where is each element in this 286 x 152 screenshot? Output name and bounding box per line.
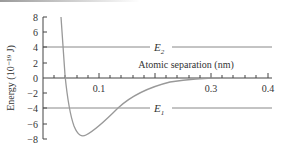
y-tick-m8: −8: [27, 134, 38, 145]
x-tick-0-4: 0.4: [262, 83, 275, 94]
x-tick-0-1: 0.1: [93, 83, 106, 94]
x-axis-title: Atomic separation (nm): [138, 59, 234, 71]
energy-curve: [61, 17, 220, 136]
energy-chart: 8 6 4 2 0 −2 −4 −6 −8 0.1 0.3 0.4 Atomic…: [0, 0, 286, 152]
y-tick-m6: −6: [27, 119, 38, 130]
y-tick-m2: −2: [27, 88, 38, 99]
y-tick-4: 4: [33, 42, 38, 53]
x-ticks: [54, 73, 268, 78]
y-tick-2: 2: [33, 58, 38, 69]
y-tick-0: 0: [33, 73, 38, 84]
y-tick-6: 6: [33, 27, 38, 38]
y-tick-8: 8: [33, 12, 38, 23]
y-axis-title: Energy (10⁻¹⁹ J): [5, 45, 17, 111]
y-tick-m4: −4: [27, 103, 38, 114]
x-tick-0-3: 0.3: [205, 83, 218, 94]
